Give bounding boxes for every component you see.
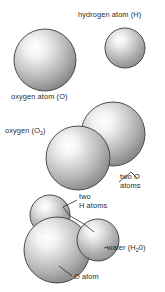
label-two-h-atoms: twoH atoms (79, 192, 107, 210)
label-two-h-atoms-line2: H atoms (79, 201, 107, 210)
label-oxygen-molecule-suffix: ) (43, 126, 46, 135)
hydrogen-atom-sphere (105, 28, 145, 68)
o2-sphere-lower-left (46, 126, 110, 190)
label-water-suffix: 0) (139, 243, 146, 252)
label-o-atom: O atom (74, 272, 99, 281)
label-water-molecule: water (H20) (107, 243, 146, 253)
label-oxygen-atom: oxygen atom (O) (11, 92, 68, 101)
oxygen-atom-sphere (14, 29, 76, 91)
label-hydrogen-atom: hydrogen atom (H) (78, 10, 141, 19)
label-two-o-atoms-line1: two O (120, 172, 140, 181)
label-two-o-atoms: two Oatoms (120, 172, 141, 190)
label-two-o-atoms-line2: atoms (120, 181, 141, 190)
label-two-h-atoms-line1: two (79, 192, 91, 201)
label-water-subscript: 2 (136, 247, 139, 253)
label-oxygen-molecule-prefix: oxygen (O (5, 126, 40, 135)
water-h-sphere-right (77, 219, 119, 261)
figure-canvas: hydrogen atom (H) oxygen atom (O) oxygen… (0, 0, 165, 292)
label-oxygen-molecule-subscript: 2 (40, 130, 43, 136)
label-oxygen-molecule: oxygen (O2) (5, 126, 46, 136)
label-water-prefix: water (H (107, 243, 136, 252)
